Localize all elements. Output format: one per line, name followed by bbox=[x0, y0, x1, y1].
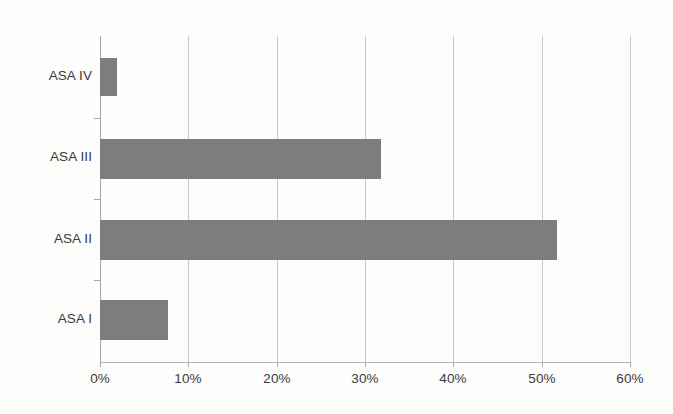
y-tick-mark-2 bbox=[94, 280, 100, 281]
x-tick-mark-60% bbox=[630, 362, 631, 367]
category-label-asa-iv: ASA IV bbox=[6, 68, 92, 83]
gridline-10% bbox=[188, 36, 189, 362]
gridline-20% bbox=[277, 36, 278, 362]
x-tick-label-40%: 40% bbox=[423, 371, 483, 386]
x-tick-mark-40% bbox=[453, 362, 454, 367]
bar-asa-ii bbox=[100, 220, 557, 260]
category-label-asa-ii: ASA II bbox=[6, 231, 92, 246]
bar-asa-iii bbox=[100, 139, 381, 179]
y-tick-mark-0 bbox=[94, 118, 100, 119]
x-tick-label-20%: 20% bbox=[247, 371, 307, 386]
x-tick-label-30%: 30% bbox=[335, 371, 395, 386]
x-tick-label-10%: 10% bbox=[158, 371, 218, 386]
x-axis-tick-labels: 0%10%20%30%40%50%60% bbox=[0, 371, 673, 395]
plot-area bbox=[100, 36, 630, 362]
category-label-asa-i: ASA I bbox=[6, 311, 92, 326]
x-tick-label-60%: 60% bbox=[600, 371, 660, 386]
gridline-30% bbox=[365, 36, 366, 362]
x-tick-mark-0% bbox=[100, 362, 101, 367]
gridline-40% bbox=[453, 36, 454, 362]
y-axis-category-labels: ASA IVASA IIIASA IIASA I bbox=[0, 36, 92, 362]
gridline-50% bbox=[542, 36, 543, 362]
gridline-60% bbox=[630, 36, 631, 362]
x-tick-label-50%: 50% bbox=[512, 371, 572, 386]
bar-chart: ASA IVASA IIIASA IIASA I 0%10%20%30%40%5… bbox=[0, 0, 673, 414]
category-label-asa-iii: ASA III bbox=[6, 149, 92, 164]
x-tick-mark-20% bbox=[277, 362, 278, 367]
x-tick-mark-50% bbox=[542, 362, 543, 367]
bar-asa-i bbox=[100, 300, 168, 340]
x-tick-label-0%: 0% bbox=[70, 371, 130, 386]
y-tick-mark-1 bbox=[94, 199, 100, 200]
x-tick-mark-30% bbox=[365, 362, 366, 367]
x-tick-mark-10% bbox=[188, 362, 189, 367]
bar-asa-iv bbox=[100, 58, 117, 96]
